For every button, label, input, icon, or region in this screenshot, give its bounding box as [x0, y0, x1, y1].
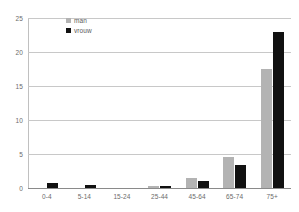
x-axis-tick-label: 45-64: [178, 193, 216, 200]
bar-group: [28, 18, 66, 188]
bar-group: [178, 18, 216, 188]
legend-label-man: man: [74, 17, 87, 24]
bar-vrouw-25-44: [160, 186, 171, 188]
legend-item-vrouw: vrouw: [66, 27, 92, 34]
x-axis-tick-label: 5-14: [66, 193, 104, 200]
legend-swatch-male-icon: [66, 18, 71, 23]
bar-vrouw-0-4: [47, 183, 58, 188]
bar-group: [103, 18, 141, 188]
y-axis-tick-label: 10: [16, 117, 28, 124]
bar-group: [66, 18, 104, 188]
bar-man-75+: [261, 69, 272, 188]
bar-vrouw-75+: [273, 32, 284, 188]
bar-vrouw-65-74: [235, 165, 246, 188]
x-axis-line: [28, 188, 291, 189]
legend-swatch-female-icon: [66, 28, 71, 33]
legend-item-man: man: [66, 17, 92, 24]
bar-chart: 0510152025 0-45-1415-2425-4445-6465-7475…: [0, 0, 299, 212]
bar-groups: [28, 18, 291, 188]
bar-vrouw-45-64: [198, 181, 209, 188]
bar-man-25-44: [148, 186, 159, 188]
x-axis-tick-label: 0-4: [28, 193, 66, 200]
x-axis-tick-label: 75+: [253, 193, 291, 200]
x-axis-tick-label: 65-74: [216, 193, 254, 200]
y-axis-tick-label: 25: [16, 15, 28, 22]
bar-man-65-74: [223, 157, 234, 188]
y-axis-tick-label: 20: [16, 49, 28, 56]
bar-vrouw-5-14: [85, 185, 96, 188]
plot-area: 0510152025: [28, 18, 291, 188]
chart-legend: man vrouw: [66, 17, 92, 34]
bar-group: [253, 18, 291, 188]
bar-man-45-64: [186, 178, 197, 188]
bar-group: [141, 18, 179, 188]
x-axis-tick-label: 25-44: [141, 193, 179, 200]
legend-label-vrouw: vrouw: [74, 27, 92, 34]
y-axis-tick-label: 15: [16, 83, 28, 90]
x-axis-tick-label: 15-24: [103, 193, 141, 200]
x-axis-labels: 0-45-1415-2425-4445-6465-7475+: [28, 193, 291, 200]
bar-group: [216, 18, 254, 188]
y-axis-tick-label: 0: [19, 185, 28, 192]
y-axis-tick-label: 5: [19, 151, 28, 158]
